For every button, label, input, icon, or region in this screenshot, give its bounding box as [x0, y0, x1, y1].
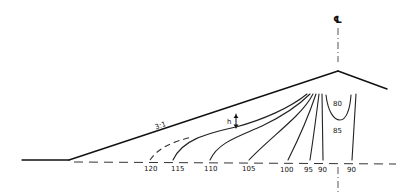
contour-90-left [322, 94, 323, 160]
contour-label-85: 85 [333, 127, 342, 135]
diagram-svg: ℄ 3:1 h 120 115 110 105 100 95 90 90 80 … [0, 0, 415, 195]
base-line [74, 162, 396, 164]
contour-label-80: 80 [333, 100, 342, 108]
contour-110 [210, 94, 310, 160]
contour-95 [310, 94, 319, 160]
contour-label-90-right: 90 [347, 166, 356, 174]
centerline-symbol: ℄ [333, 14, 342, 25]
contour-label-115: 115 [171, 165, 184, 173]
contour-label-90-left: 90 [318, 166, 327, 174]
embankment-diagram: ℄ 3:1 h 120 115 110 105 100 95 90 90 80 … [0, 0, 415, 195]
slope-label: 3:1 [154, 120, 167, 131]
contour-120 [150, 137, 192, 160]
contour-label-105: 105 [242, 165, 255, 173]
contour-90-right [352, 94, 356, 160]
contour-label-100: 100 [280, 166, 293, 174]
upstream-slope [69, 71, 338, 160]
h-label: h [227, 118, 231, 126]
contour-label-110: 110 [204, 165, 217, 173]
contour-label-120: 120 [144, 165, 157, 173]
contour-label-95: 95 [304, 166, 313, 174]
downstream-slope [338, 71, 387, 89]
h-arrow-up-icon [234, 115, 239, 119]
